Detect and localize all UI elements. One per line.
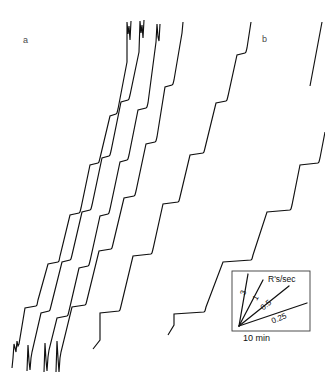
legend-title: R's/sec [268, 275, 296, 284]
figure-root: a b 300 R's 10 min R's/sec 310.50.25 [0, 0, 325, 375]
legend-y-axis-label-wrapper: 300 R's [216, 275, 230, 333]
panel-label-b: b [262, 35, 267, 44]
legend-x-axis-label: 10 min [243, 334, 270, 343]
panel-label-a: a [23, 36, 28, 45]
